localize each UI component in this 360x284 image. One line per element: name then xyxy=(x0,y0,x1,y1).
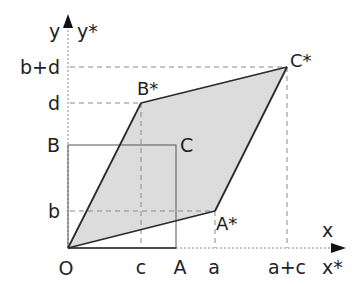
point-label-C-star: C* xyxy=(290,50,312,71)
x-tick-a-plus-c: a+c xyxy=(268,256,306,278)
x-tick-c: c xyxy=(136,256,146,278)
point-label-B: B xyxy=(47,134,60,156)
y-tick-b: b xyxy=(48,200,60,222)
y-axis-label: y xyxy=(49,20,60,42)
y-tick-b-plus-d: b+d xyxy=(20,56,60,78)
point-label-A: A xyxy=(174,256,187,278)
x-star-axis-label: x* xyxy=(322,256,343,278)
y-tick-d: d xyxy=(48,92,60,114)
x-axis-arrow-icon xyxy=(331,243,346,253)
point-label-origin: O xyxy=(59,257,74,279)
point-label-B-star: B* xyxy=(137,78,158,99)
y-axis-arrow-icon xyxy=(63,14,73,28)
x-tick-a: a xyxy=(208,256,220,278)
x-axis-label: x xyxy=(322,219,333,241)
y-star-axis-label: y* xyxy=(77,20,98,42)
point-label-C: C xyxy=(180,134,193,156)
point-label-A-star: A* xyxy=(216,213,237,234)
transformation-diagram: y y* x x* b+d d B b O c A a a+c C B* C* … xyxy=(0,0,360,284)
